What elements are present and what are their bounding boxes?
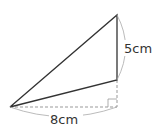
triangle-diagram: 5cm 8cm [0, 0, 164, 127]
base-label: 8cm [50, 112, 78, 127]
height-label: 5cm [124, 41, 152, 56]
triangle [10, 15, 117, 107]
right-angle-marker [108, 99, 117, 107]
